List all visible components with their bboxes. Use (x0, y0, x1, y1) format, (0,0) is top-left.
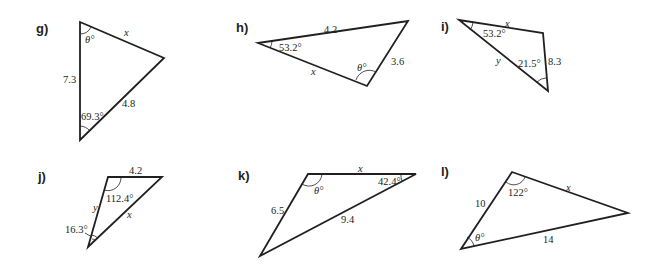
problem-label: h) (236, 20, 248, 35)
side-right-label: 8.3 (548, 56, 561, 67)
angle-arc (91, 235, 98, 238)
angle-arc (401, 174, 402, 181)
angle-top-left-label: θ° (314, 185, 324, 196)
problem-label: g) (36, 21, 48, 36)
angle-bottom-label: 16.3° (65, 224, 88, 235)
angle-top-right-label: 42.4° (378, 176, 401, 187)
angle-top-label: θ° (85, 34, 95, 45)
side-left-label: y (92, 202, 98, 213)
angle-left-label: 53.2° (279, 42, 302, 53)
side-right-label: 4.8 (122, 98, 135, 109)
problem-i: i) x 53.2° y 21.5° 8.3 (441, 18, 561, 91)
side-left-label: 10 (475, 198, 486, 209)
problem-l: l) 122° x 10 θ° 14 (441, 164, 628, 249)
side-top-label: 4.2 (324, 24, 337, 35)
problem-label: k) (238, 168, 250, 183)
side-left-label: 7.3 (63, 74, 76, 85)
angle-top-label: 112.4° (106, 193, 133, 204)
side-top-label: x (565, 182, 571, 193)
angle-arc (537, 78, 546, 82)
problem-k: k) x θ° 42.4° 6.5 9.4 (238, 163, 416, 256)
problem-g: g) θ° x 7.3 4.8 69.3° (36, 21, 164, 140)
side-left-label: y (495, 55, 501, 66)
problem-label: j) (37, 169, 46, 184)
side-bottom-label: x (310, 66, 316, 77)
problem-label: l) (441, 164, 449, 179)
triangle-worksheet: g) θ° x 7.3 4.8 69.3° h) 4.2 53.2° 3.6 θ… (0, 0, 659, 265)
angle-arc (80, 27, 91, 34)
triangle-j (88, 177, 162, 247)
angle-bottom-label: θ° (357, 62, 367, 73)
side-top-label: x (123, 27, 129, 38)
angle-arc (80, 126, 90, 131)
problem-h: h) 4.2 53.2° 3.6 θ° x (236, 20, 408, 86)
angle-bottom-label: θ° (475, 232, 485, 243)
side-right-label: 3.6 (391, 56, 404, 67)
side-right-label: x (126, 209, 132, 220)
side-top-label: 4.2 (129, 165, 142, 176)
side-bottom-label: 9.4 (341, 214, 355, 225)
problem-j: j) 4.2 112.4° y x 16.3° (37, 165, 162, 247)
side-left-label: 6.5 (271, 205, 284, 216)
angle-bottom-label: 69.3° (81, 111, 104, 122)
angle-bottom-label: 21.5° (518, 58, 541, 69)
angle-top-label: 122° (508, 187, 528, 198)
problem-label: i) (441, 19, 449, 34)
side-bottom-label: 14 (543, 234, 554, 245)
angle-arc (92, 239, 95, 240)
angle-left-label: 53.2° (483, 28, 506, 39)
angle-arc (470, 22, 473, 30)
side-top-label: x (357, 163, 363, 174)
